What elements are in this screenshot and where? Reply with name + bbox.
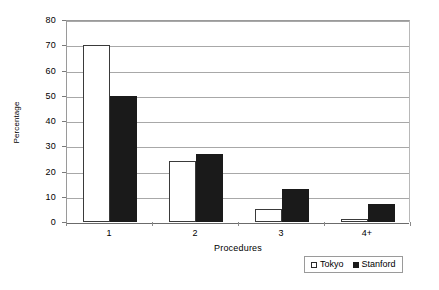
bar-tokyo-3 bbox=[255, 209, 282, 222]
legend-swatch-tokyo-icon bbox=[311, 262, 317, 268]
legend: TokyoStanford bbox=[304, 256, 403, 273]
bar-tokyo-1 bbox=[83, 45, 110, 222]
legend-swatch-stanford-icon bbox=[353, 262, 359, 268]
legend-item-stanford: Stanford bbox=[353, 260, 396, 269]
x-tick-mark bbox=[238, 222, 239, 226]
legend-item-tokyo: Tokyo bbox=[311, 260, 344, 269]
y-tick-label: 0 bbox=[14, 218, 56, 227]
bar-tokyo-2 bbox=[169, 161, 196, 222]
x-tick-mark bbox=[66, 222, 67, 226]
x-tick-label: 4+ bbox=[337, 228, 397, 238]
y-tick-mark bbox=[62, 96, 66, 97]
bar-stanford-4plus bbox=[368, 204, 395, 222]
x-axis-title: Procedures bbox=[66, 243, 410, 253]
y-tick-label: 60 bbox=[14, 67, 56, 76]
bar-chart: Percentage 01020304050607080 1234+ Proce… bbox=[0, 0, 439, 290]
x-tick-label: 1 bbox=[79, 228, 139, 238]
y-tick-label: 50 bbox=[14, 92, 56, 101]
y-tick-mark bbox=[62, 197, 66, 198]
plot-area bbox=[66, 20, 410, 222]
bar-stanford-3 bbox=[282, 189, 309, 222]
x-tick-label: 3 bbox=[251, 228, 311, 238]
y-tick-label: 70 bbox=[14, 41, 56, 50]
legend-label: Stanford bbox=[362, 260, 396, 269]
legend-label: Tokyo bbox=[320, 260, 344, 269]
y-tick-label: 20 bbox=[14, 168, 56, 177]
bars-layer bbox=[67, 21, 409, 222]
y-tick-mark bbox=[62, 121, 66, 122]
bar-stanford-2 bbox=[196, 154, 223, 222]
y-tick-label: 30 bbox=[14, 142, 56, 151]
y-tick-mark bbox=[62, 45, 66, 46]
y-tick-mark bbox=[62, 20, 66, 21]
y-tick-label: 40 bbox=[14, 117, 56, 126]
y-tick-mark bbox=[62, 172, 66, 173]
x-tick-mark bbox=[152, 222, 153, 226]
bar-tokyo-4plus bbox=[341, 219, 368, 222]
y-tick-label: 80 bbox=[14, 16, 56, 25]
bar-stanford-1 bbox=[110, 96, 137, 222]
x-tick-label: 2 bbox=[165, 228, 225, 238]
y-tick-label: 10 bbox=[14, 193, 56, 202]
x-tick-mark bbox=[410, 222, 411, 226]
y-tick-mark bbox=[62, 146, 66, 147]
x-tick-mark bbox=[324, 222, 325, 226]
y-tick-mark bbox=[62, 71, 66, 72]
